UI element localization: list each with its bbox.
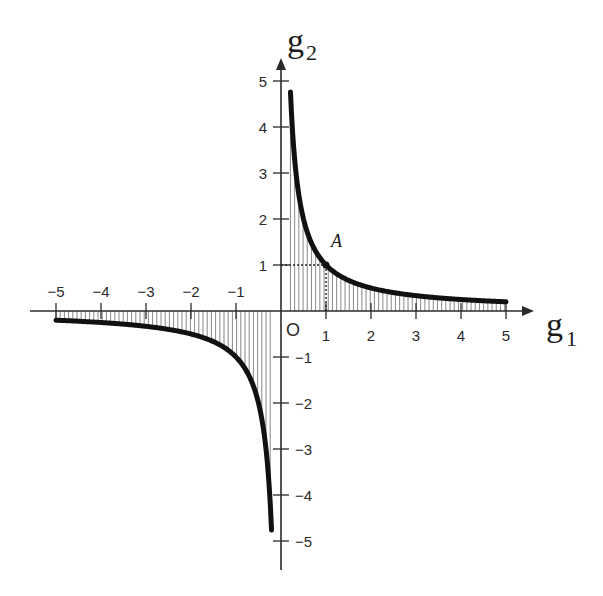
x-tick-label: 5	[502, 327, 510, 344]
x-tick-label: −3	[137, 283, 154, 300]
x-tick-label: 4	[457, 327, 465, 344]
x-tick-label: −4	[92, 283, 109, 300]
y-tick-label: 1	[259, 257, 267, 274]
y-tick-label: −4	[295, 487, 312, 504]
negative-branch-curve	[56, 320, 272, 530]
y-tick-label: 5	[259, 73, 267, 90]
point-a-marker	[323, 262, 330, 269]
axes	[30, 58, 534, 570]
point-a-label: A	[330, 231, 343, 251]
positive-branch-curve	[290, 92, 506, 302]
point-a-guides	[281, 265, 326, 311]
x-axis-label: g	[546, 306, 563, 343]
y-tick-label: −2	[295, 395, 312, 412]
x-tick-label: 2	[367, 327, 375, 344]
y-tick-label: −1	[295, 349, 312, 366]
origin-label: O	[286, 320, 300, 340]
x-tick-label: 3	[412, 327, 420, 344]
y-axis-label: g	[287, 22, 304, 59]
y-tick-label: 4	[259, 119, 267, 136]
x-tick-label: −2	[182, 283, 199, 300]
x-tick-label: 1	[322, 327, 330, 344]
y-tick-label: −5	[295, 533, 312, 550]
x-axis-arrow-icon	[522, 306, 534, 316]
x-axis-label-subscript: 1	[566, 326, 577, 351]
y-tick-label: 3	[259, 165, 267, 182]
y-tick-label: 2	[259, 211, 267, 228]
hyperbola-chart: −5−4−3−2−112345−5−4−3−2−112345 g 2 g 1 O…	[0, 0, 603, 596]
x-tick-label: −1	[227, 283, 244, 300]
y-tick-label: −3	[295, 441, 312, 458]
x-tick-label: −5	[47, 283, 64, 300]
y-axis-label-subscript: 2	[306, 40, 317, 65]
y-axis-arrow-icon	[276, 58, 286, 70]
